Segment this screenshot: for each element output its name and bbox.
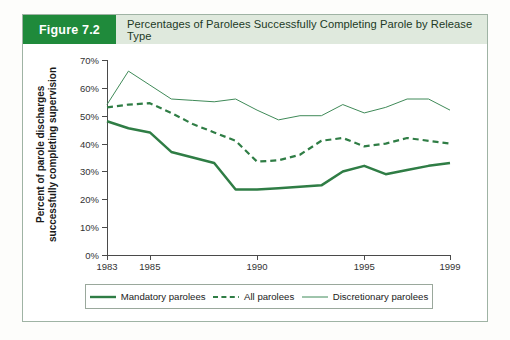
legend-item-discretionary: Discretionary parolees [302,291,428,302]
legend-label-discretionary: Discretionary parolees [333,291,428,302]
x-tick [450,255,451,260]
figure-number-badge: Figure 7.2 [23,15,116,44]
x-tick-label: 1995 [354,261,375,272]
y-tick-label: 10% [80,222,99,233]
chart-lines [107,60,450,255]
x-axis-line [107,255,450,256]
legend-swatch-all [213,292,239,302]
y-tick-label: 60% [80,82,99,93]
y-tick-label: 20% [80,194,99,205]
legend-swatch-discretionary [302,292,328,302]
legend-label-all: All parolees [244,291,294,302]
plot-area: 0%10%20%30%40%50%60%70% 1983198519901995… [107,60,450,255]
chart-legend: Mandatory parolees All parolees Discreti… [85,284,433,309]
y-tick-label: 0% [85,250,99,261]
figure-screenshot: Figure 7.2 Percentages of Parolees Succe… [0,0,510,340]
legend-item-all: All parolees [213,291,294,302]
series-line-mandatory-parolees [107,121,450,189]
figure-number-label: Figure 7.2 [39,23,100,37]
y-tick-label: 30% [80,166,99,177]
series-line-discretionary-parolees [107,71,450,120]
chart-body: Percent of parole discharges successfull… [23,44,487,321]
y-tick-label: 70% [80,55,99,66]
legend-swatch-mandatory [90,292,116,302]
x-tick-label: 1985 [139,261,160,272]
figure-frame: Figure 7.2 Percentages of Parolees Succe… [22,14,488,322]
legend-item-mandatory: Mandatory parolees [90,291,206,302]
figure-header: Figure 7.2 Percentages of Parolees Succe… [23,15,487,44]
y-tick-label: 40% [80,138,99,149]
x-tick [150,255,151,260]
y-tick-label: 50% [80,110,99,121]
x-tick [364,255,365,260]
y-axis-title: Percent of parole discharges successfull… [39,54,55,254]
legend-label-mandatory: Mandatory parolees [121,291,206,302]
figure-title: Percentages of Parolees Successfully Com… [127,15,481,44]
series-line-all-parolees [107,103,450,161]
x-tick-label: 1983 [96,261,117,272]
x-tick-label: 1990 [246,261,267,272]
x-tick [257,255,258,260]
x-tick-label: 1999 [439,261,460,272]
x-tick [107,255,108,260]
